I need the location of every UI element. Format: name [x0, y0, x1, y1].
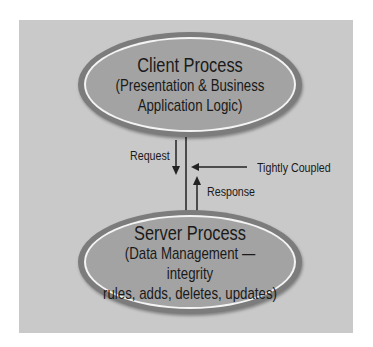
- response-label: Response: [207, 184, 255, 199]
- response-arrow-icon: [193, 176, 201, 185]
- client-subtitle-line1: (Presentation & Business: [116, 76, 265, 96]
- request-label: Request: [130, 148, 170, 163]
- server-subtitle-line2: rules, adds, deletes, updates): [103, 284, 277, 304]
- server-title: Server Process: [134, 221, 246, 244]
- client-process-ellipse: Client Process (Presentation & Business …: [78, 32, 302, 137]
- tightly-coupled-arrow-icon: [191, 163, 199, 171]
- server-subtitle-line1: (Data Management — integrity: [103, 244, 278, 284]
- server-process-ellipse: Server Process (Data Management — integr…: [78, 210, 302, 314]
- client-subtitle-line2: Application Logic): [138, 96, 243, 116]
- request-arrow-icon: [172, 166, 180, 175]
- tightly-coupled-label: Tightly Coupled: [257, 160, 331, 175]
- client-title: Client Process: [137, 53, 243, 76]
